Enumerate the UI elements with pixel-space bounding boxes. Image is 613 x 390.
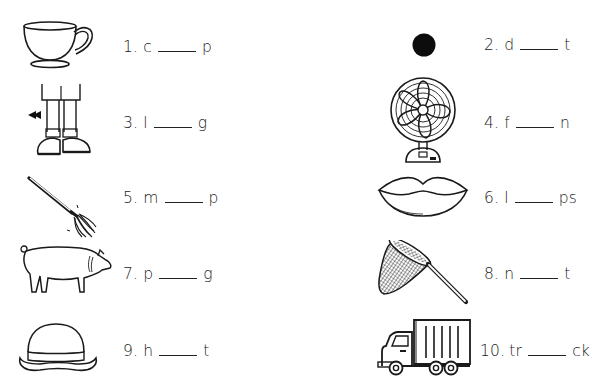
word-suffix: p <box>202 38 212 56</box>
item-number: 6. <box>484 189 499 207</box>
item-number: 8. <box>484 265 499 283</box>
word-suffix: ps <box>559 189 577 207</box>
hat-icon <box>16 320 100 376</box>
item-number: 10. <box>480 342 505 360</box>
word-suffix: t <box>564 265 570 283</box>
word-suffix: p <box>209 189 219 207</box>
item-number: 7. <box>123 265 138 283</box>
answer-blank[interactable] <box>520 37 558 50</box>
word-item-7: 7.pg <box>123 265 213 283</box>
word-suffix: g <box>198 114 208 132</box>
word-prefix: tr <box>509 342 522 360</box>
item-number: 5. <box>123 189 138 207</box>
word-prefix: h <box>143 342 153 360</box>
answer-blank[interactable] <box>159 343 197 356</box>
word-item-1: 1.cp <box>123 38 212 56</box>
answer-blank[interactable] <box>154 115 192 128</box>
word-prefix: l <box>504 189 509 207</box>
word-prefix: f <box>504 114 510 132</box>
answer-blank[interactable] <box>528 343 566 356</box>
word-item-9: 9.ht <box>123 342 210 360</box>
word-item-8: 8.nt <box>484 265 571 283</box>
word-prefix: l <box>143 114 148 132</box>
word-prefix: n <box>504 265 514 283</box>
answer-blank[interactable] <box>165 190 203 203</box>
word-item-3: 3.lg <box>123 114 207 132</box>
word-suffix: n <box>560 114 570 132</box>
word-suffix: ck <box>572 342 590 360</box>
word-item-5: 5.mp <box>123 189 219 207</box>
word-item-2: 2.dt <box>484 36 571 54</box>
word-prefix: m <box>143 189 158 207</box>
teacup-icon <box>18 20 98 70</box>
answer-blank[interactable] <box>515 190 553 203</box>
truck-icon <box>376 318 472 376</box>
item-number: 1. <box>123 38 138 56</box>
word-prefix: c <box>143 38 152 56</box>
mop-icon <box>26 175 98 239</box>
item-number: 3. <box>123 114 138 132</box>
lips-icon <box>377 174 469 220</box>
answer-blank[interactable] <box>158 39 196 52</box>
item-number: 2. <box>484 36 499 54</box>
word-suffix: g <box>203 265 213 283</box>
answer-blank[interactable] <box>159 266 197 279</box>
fan-icon <box>388 76 458 166</box>
word-item-4: 4.fn <box>484 114 570 132</box>
word-suffix: t <box>564 36 570 54</box>
answer-blank[interactable] <box>520 266 558 279</box>
net-icon <box>376 240 472 306</box>
word-item-6: 6.lps <box>484 189 577 207</box>
answer-blank[interactable] <box>516 115 554 128</box>
item-number: 4. <box>484 114 499 132</box>
legs-icon <box>26 82 96 160</box>
item-number: 9. <box>123 342 138 360</box>
word-item-10: 10.trck <box>480 342 590 360</box>
dot-icon <box>412 33 436 57</box>
word-prefix: d <box>504 36 514 54</box>
pig-icon <box>18 244 114 298</box>
word-suffix: t <box>203 342 209 360</box>
word-prefix: p <box>143 265 153 283</box>
